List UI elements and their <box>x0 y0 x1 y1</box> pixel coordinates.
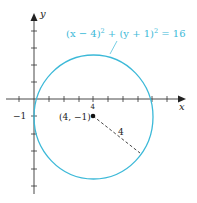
equation-label: (x − 4)2 + (y + 1)2 = 16 <box>66 27 186 39</box>
center-label: (4, −1) <box>59 112 91 122</box>
center-point <box>91 114 96 119</box>
radius-label: 4 <box>118 127 124 137</box>
y-axis <box>31 13 38 194</box>
y-tick-label-neg1: −1 <box>13 111 26 121</box>
equation-leader-line <box>110 41 117 54</box>
x-axis-label: x <box>179 101 185 112</box>
circle-diagram: (x − 4)2 + (y + 1)2 = 16 y x −1 4 (4, −1… <box>0 0 197 203</box>
y-axis-label: y <box>39 8 46 19</box>
x-axis <box>6 96 186 103</box>
x-tick-label-4: 4 <box>91 103 96 111</box>
radius-line <box>93 116 140 153</box>
